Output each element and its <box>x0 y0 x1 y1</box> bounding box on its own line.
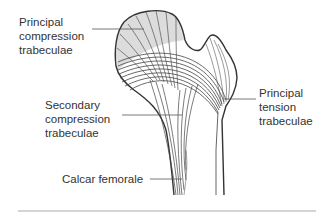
femur-lateral-shaft <box>216 112 218 195</box>
label-secondary-compression: Secondary compression trabeculae <box>45 98 110 140</box>
label-principal-compression: Principal compression trabeculae <box>19 15 84 57</box>
label-calcar-femorale: Calcar femorale <box>62 172 143 186</box>
secondary-compression-trabeculae <box>150 80 198 195</box>
label-principal-tension: Principal tension trabeculae <box>259 86 313 128</box>
principal-tension-trabeculae <box>118 53 226 114</box>
